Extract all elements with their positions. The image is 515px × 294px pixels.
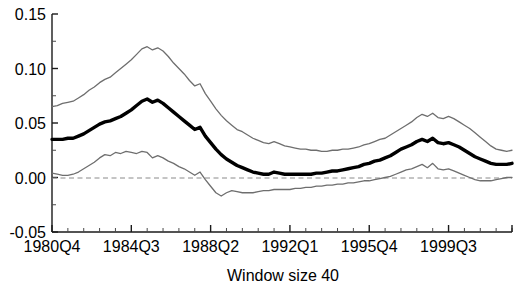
x-axis-group: 1980Q41984Q31988Q21992Q11995Q41999Q3 — [24, 225, 512, 255]
y-axis-group: -0.050.000.050.100.15 — [10, 6, 58, 241]
y-axis-tick-label: 0.00 — [15, 170, 46, 187]
x-axis-tick-label: 1995Q4 — [341, 238, 398, 255]
series-line-upper — [52, 47, 512, 152]
x-axis-ticks — [52, 225, 512, 232]
y-axis-tick-label: 0.10 — [15, 61, 46, 78]
x-axis-tick-label: 1980Q4 — [24, 238, 81, 255]
y-axis-tick-labels: -0.050.000.050.100.15 — [10, 6, 47, 241]
y-axis-tick-label: 0.15 — [15, 6, 46, 23]
data-series-group — [52, 47, 512, 196]
chart-container: -0.050.000.050.100.15 1980Q41984Q31988Q2… — [0, 0, 515, 294]
x-axis-tick-label: 1984Q3 — [103, 238, 160, 255]
y-axis-tick-label: 0.05 — [15, 115, 46, 132]
x-axis-tick-labels: 1980Q41984Q31988Q21992Q11995Q41999Q3 — [24, 238, 478, 255]
x-axis-title: Window size 40 — [227, 267, 339, 284]
y-axis-ticks — [52, 14, 58, 232]
series-line-center — [52, 99, 512, 174]
x-axis-tick-label: 1992Q1 — [261, 238, 318, 255]
x-axis-tick-label: 1988Q2 — [182, 238, 239, 255]
line-chart-plot: -0.050.000.050.100.15 1980Q41984Q31988Q2… — [0, 0, 515, 294]
x-axis-tick-label: 1999Q3 — [420, 238, 477, 255]
